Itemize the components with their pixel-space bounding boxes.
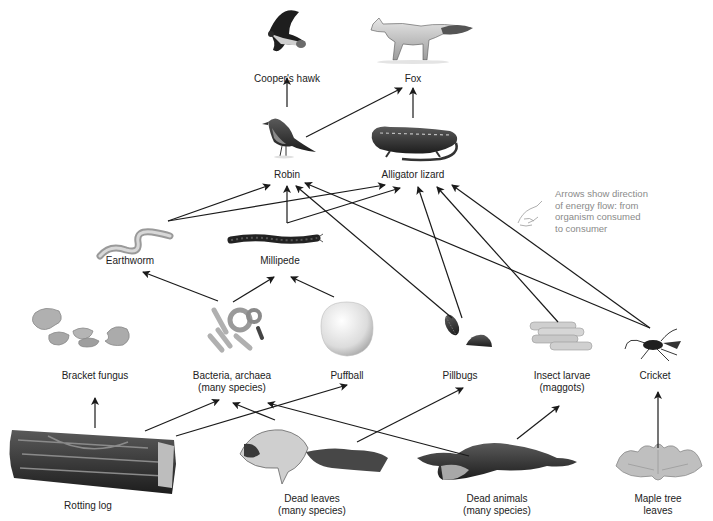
label-hawk: Cooper's hawk (254, 73, 320, 85)
note-line-4: to consumer (555, 223, 648, 235)
pointing-hand-icon (518, 201, 542, 226)
label-cricket-line-1: Cricket (639, 370, 670, 382)
arrow-deadanimals-to-larvae (517, 406, 559, 439)
millipede-icon (231, 234, 323, 242)
label-puffball: Puffball (330, 370, 363, 382)
label-lizard-line-1: Alligator lizard (382, 169, 445, 181)
label-larvae: Insect larvae(maggots) (534, 370, 591, 394)
earthworm-icon (100, 232, 170, 256)
label-deadanimals-line-2: (many species) (463, 505, 531, 517)
label-maple: Maple treeleaves (634, 493, 681, 517)
note-line-1: Arrows show direction (555, 188, 648, 200)
label-bracket-line-1: Bracket fungus (62, 370, 129, 382)
label-pillbugs-line-1: Pillbugs (442, 370, 477, 382)
maple-leaves-icon (616, 444, 702, 480)
robin-icon (262, 118, 316, 158)
label-deadleaves-line-2: (many species) (278, 505, 346, 517)
arrow-larvae-to-lizard (437, 187, 558, 322)
bacteria-icon (210, 310, 262, 350)
label-cricket: Cricket (639, 370, 670, 382)
arrow-bacteria-to-earthworm (143, 272, 218, 301)
label-deadanimals: Dead animals(many species) (463, 493, 531, 517)
label-deadleaves: Dead leaves(many species) (278, 493, 346, 517)
label-log: Rotting log (64, 500, 112, 512)
fox-icon (371, 18, 473, 64)
puffball-icon (321, 302, 373, 356)
label-bacteria-line-1: Bacteria, archaea (193, 370, 271, 382)
label-lizard: Alligator lizard (382, 169, 445, 181)
label-log-line-1: Rotting log (64, 500, 112, 512)
label-bracket: Bracket fungus (62, 370, 129, 382)
label-deadanimals-line-1: Dead animals (463, 493, 531, 505)
food-web-diagram: Cooper's hawkFoxRobinAlligator lizardEar… (0, 0, 713, 521)
arrow-earthworm-to-robin (168, 185, 270, 221)
energy-flow-note: Arrows show direction of energy flow: fr… (555, 188, 648, 234)
note-line-3: organism consumed (555, 211, 648, 223)
note-line-2: of energy flow: from (555, 200, 648, 212)
arrow-puffball-to-millipede (291, 277, 334, 297)
label-bacteria-line-2: (many species) (193, 382, 271, 394)
label-bacteria: Bacteria, archaea(many species) (193, 370, 271, 394)
label-robin-line-1: Robin (274, 169, 300, 181)
label-pillbugs: Pillbugs (442, 370, 477, 382)
label-hawk-line-1: Cooper's hawk (254, 73, 320, 85)
label-maple-line-2: leaves (634, 505, 681, 517)
cricket-icon (625, 329, 681, 361)
label-robin: Robin (274, 169, 300, 181)
label-maple-line-1: Maple tree (634, 493, 681, 505)
label-puffball-line-1: Puffball (330, 370, 363, 382)
lizard-icon (372, 127, 457, 160)
label-fox-line-1: Fox (405, 73, 422, 85)
label-deadleaves-line-1: Dead leaves (278, 493, 346, 505)
label-millipede: Millipede (260, 255, 299, 267)
pillbug-icon (442, 312, 492, 347)
label-larvae-line-2: (maggots) (534, 382, 591, 394)
hawk-icon (268, 10, 306, 51)
label-earthworm-line-1: Earthworm (106, 255, 154, 267)
maggots-icon (530, 322, 592, 350)
label-earthworm: Earthworm (106, 255, 154, 267)
rotting-log-icon (9, 430, 176, 494)
arrow-deadleaves-to-pillbugs (357, 388, 463, 442)
label-fox: Fox (405, 73, 422, 85)
arrow-pillbugs-to-robin (296, 186, 452, 318)
label-larvae-line-1: Insect larvae (534, 370, 591, 382)
arrow-bacteria-to-millipede (233, 277, 274, 302)
label-millipede-line-1: Millipede (260, 255, 299, 267)
bracket-fungus-icon (32, 308, 129, 347)
